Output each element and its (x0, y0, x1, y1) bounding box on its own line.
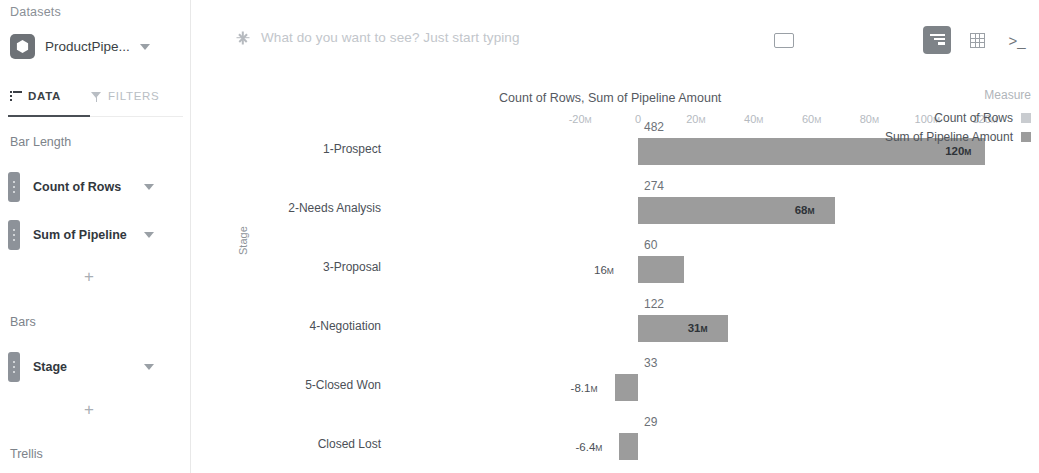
chevron-down-icon[interactable] (144, 232, 154, 238)
bar[interactable] (638, 256, 684, 283)
x-axis-tick: 60M (802, 113, 821, 125)
x-axis-tick: 0 (635, 113, 641, 125)
category-label-slot: Closed Lost (191, 437, 381, 451)
add-bar-length-field-button[interactable]: + (82, 270, 96, 284)
console-button[interactable]: >_ (1003, 26, 1031, 54)
chart-view-icon (930, 34, 945, 47)
category-label: 4-Negotiation (191, 319, 381, 333)
category-label: 1-Prospect (191, 142, 381, 156)
table-view-button[interactable] (963, 26, 991, 54)
sparkle-icon (236, 31, 249, 44)
sidebar: Datasets ProductPipe... DATA FILTERS Bar (0, 0, 191, 473)
field-chip-stage[interactable]: Stage (8, 352, 176, 382)
x-axis-tick: 20M (686, 113, 705, 125)
bar-count-label: 60 (644, 238, 657, 252)
drag-handle-icon[interactable] (8, 172, 20, 202)
tab-filters[interactable]: FILTERS (91, 88, 159, 110)
list-icon (10, 91, 22, 101)
field-chip-count-of-rows[interactable]: Count of Rows (8, 172, 176, 202)
trellis-group-title: Trellis (10, 447, 43, 461)
tabs-divider (90, 116, 183, 117)
bar-value-label: -8.1M (571, 382, 598, 394)
bar-length-group-title: Bar Length (10, 135, 71, 149)
search-bar[interactable]: What do you want to see? Just start typi… (236, 30, 520, 45)
category-label-slot: 4-Negotiation (191, 319, 381, 333)
legend-label: Count of Rows (934, 111, 1013, 125)
x-axis-tick: 40M (744, 113, 763, 125)
app-root: Datasets ProductPipe... DATA FILTERS Bar (0, 0, 1039, 473)
search-input[interactable]: What do you want to see? Just start typi… (261, 30, 520, 45)
legend-item[interactable]: Count of Rows (841, 111, 1031, 125)
legend-swatch (1021, 113, 1031, 123)
field-chip-sum-of-pipeline[interactable]: Sum of Pipeline (8, 220, 176, 250)
tab-filters-label: FILTERS (108, 90, 159, 102)
field-chip-label: Stage (33, 360, 67, 374)
legend: Measure Count of Rows Sum of Pipeline Am… (841, 88, 1031, 149)
bar[interactable] (638, 315, 728, 342)
bar-count-label: 122 (644, 297, 664, 311)
main-panel: What do you want to see? Just start typi… (191, 0, 1039, 473)
category-label: Closed Lost (191, 437, 381, 451)
category-label-slot: 3-Proposal (191, 260, 381, 274)
bar-count-label: 482 (644, 120, 664, 134)
bar-value-label: 68M (795, 204, 815, 216)
top-bar: What do you want to see? Just start typi… (191, 0, 1039, 80)
chart-title: Count of Rows, Sum of Pipeline Amount (499, 91, 721, 105)
chart-view-button[interactable] (923, 26, 951, 54)
bar-value-label: 31M (688, 322, 708, 334)
category-label-slot: 1-Prospect (191, 142, 381, 156)
legend-title: Measure (841, 88, 1031, 102)
category-label: 5-Closed Won (191, 378, 381, 392)
legend-swatch (1021, 132, 1031, 142)
chevron-down-icon[interactable] (144, 364, 154, 370)
run-query-button[interactable] (774, 33, 794, 48)
y-axis-title: Stage (237, 226, 249, 255)
legend-item[interactable]: Sum of Pipeline Amount (841, 130, 1031, 144)
bar-value-label: 16M (594, 264, 614, 276)
field-chip-label: Sum of Pipeline (33, 228, 127, 242)
table-view-icon (970, 33, 985, 48)
x-axis-tick: -20M (569, 113, 592, 125)
view-switcher: >_ (923, 26, 1031, 54)
dataset-hexagon-icon (10, 34, 35, 59)
category-label: 2-Needs Analysis (191, 201, 381, 215)
dataset-name: ProductPipe... (45, 39, 130, 54)
tab-data[interactable]: DATA (10, 88, 61, 110)
bar-count-label: 29 (644, 415, 657, 429)
sidebar-tabs: DATA FILTERS (0, 88, 191, 118)
chevron-down-icon[interactable] (140, 44, 150, 50)
drag-handle-icon[interactable] (8, 220, 20, 250)
category-label-slot: 2-Needs Analysis (191, 201, 381, 215)
add-bars-field-button[interactable]: + (82, 403, 96, 417)
legend-label: Sum of Pipeline Amount (885, 130, 1013, 144)
dataset-selector[interactable]: ProductPipe... (10, 34, 180, 59)
console-icon: >_ (1008, 33, 1025, 48)
field-chip-label: Count of Rows (33, 180, 121, 194)
active-tab-underline (8, 115, 90, 117)
bar[interactable] (615, 374, 638, 401)
drag-handle-icon[interactable] (8, 352, 20, 382)
funnel-icon (91, 91, 102, 102)
datasets-label: Datasets (10, 5, 61, 19)
category-label: 3-Proposal (191, 260, 381, 274)
bar[interactable] (619, 433, 638, 460)
bar-count-label: 33 (644, 356, 657, 370)
chevron-down-icon[interactable] (144, 184, 154, 190)
bar-value-label: -6.4M (575, 441, 602, 453)
tab-data-label: DATA (28, 90, 61, 102)
bar-count-label: 274 (644, 179, 664, 193)
category-label-slot: 5-Closed Won (191, 378, 381, 392)
bars-group-title: Bars (10, 315, 36, 329)
